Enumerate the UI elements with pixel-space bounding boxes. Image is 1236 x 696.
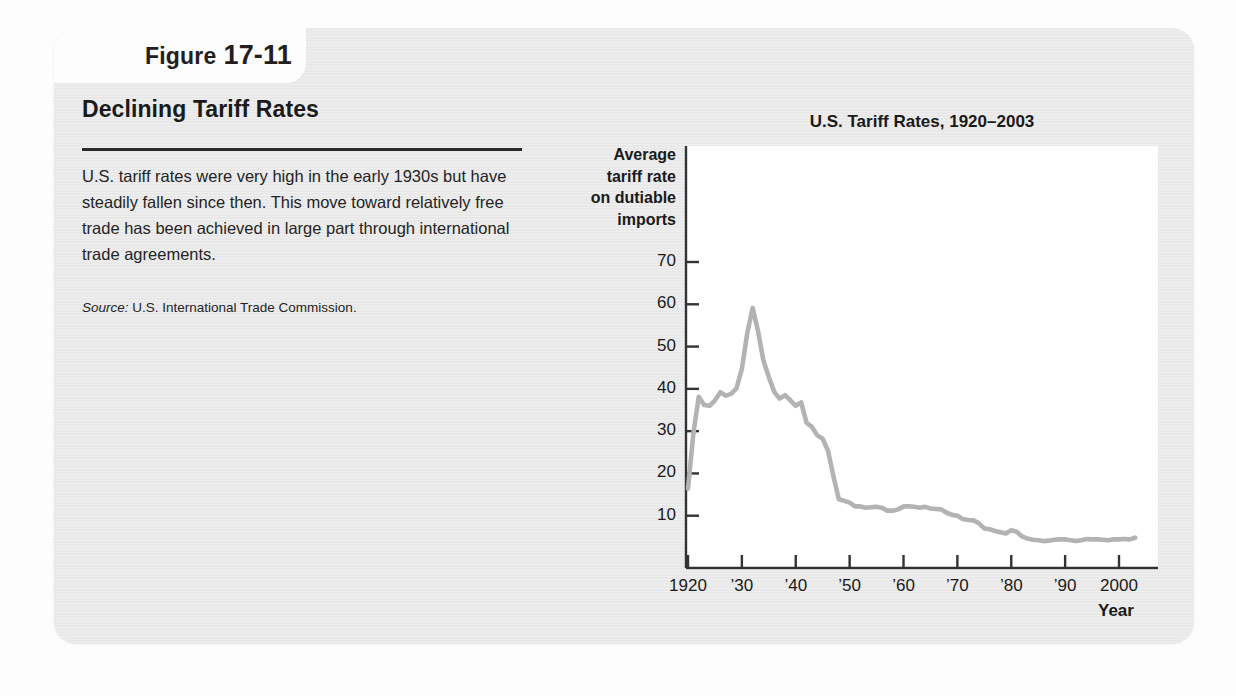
y-tick-label-20: 20 (624, 462, 676, 482)
figure-source: Source: U.S. International Trade Commiss… (82, 300, 552, 315)
figure-number-text: Figure17-11 (145, 40, 292, 71)
y-axis-title-line-4: imports (566, 209, 676, 231)
y-axis-title: Average tariff rate on dutiable imports (566, 144, 676, 230)
y-axis-title-line-3: on dutiable (566, 187, 676, 209)
figure-description: U.S. tariff rates were very high in the … (82, 163, 534, 267)
y-axis-title-line-1: Average (566, 144, 676, 166)
panel-title: Declining Tariff Rates (82, 96, 319, 123)
y-axis-title-line-2: tariff rate (566, 166, 676, 188)
y-tick-label-60: 60 (624, 293, 676, 313)
x-axis-title: Year (1098, 601, 1134, 621)
figure-page: Figure17-11 Declining Tariff Rates U.S. … (0, 0, 1236, 696)
figure-number-tab: Figure17-11 (54, 28, 306, 83)
y-tick-label-70: 70 (624, 251, 676, 271)
source-text: U.S. International Trade Commission. (129, 300, 357, 315)
figure-number: 17-11 (223, 40, 292, 70)
y-tick-label-30: 30 (624, 420, 676, 440)
y-tick-label-40: 40 (624, 378, 676, 398)
figure-word: Figure (145, 43, 216, 69)
chart-title: U.S. Tariff Rates, 1920–2003 (686, 112, 1158, 132)
title-divider (82, 148, 522, 151)
source-label: Source: (82, 300, 129, 315)
y-tick-label-50: 50 (624, 336, 676, 356)
y-tick-label-10: 10 (624, 505, 676, 525)
x-tick-label-2000: 2000 (1079, 576, 1159, 596)
plot-area-background (686, 146, 1158, 570)
